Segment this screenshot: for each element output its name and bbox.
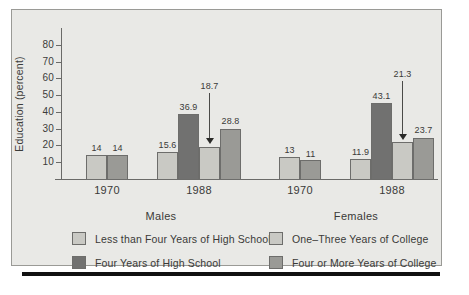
group-label-males: Males	[101, 210, 221, 222]
bar-label-females-1988-four-years-hs: 43.1	[369, 91, 394, 101]
bottom-rule	[22, 272, 440, 276]
legend-swatch-less-than-hs	[72, 232, 86, 245]
figure: Education (percent) 80 70 60 50 40 30 20…	[0, 0, 469, 295]
bar-females-1970-four-plus-college	[300, 160, 321, 180]
chart-panel: Education (percent) 80 70 60 50 40 30 20…	[11, 9, 442, 266]
bar-females-1988-less-than-hs	[350, 159, 371, 180]
plot-area: Education (percent) 80 70 60 50 40 30 20…	[61, 28, 438, 180]
bar-females-1988-four-plus-college	[413, 138, 434, 180]
annotation-label-males-1988-one-three-college: 18.7	[197, 81, 222, 91]
legend-swatch-four-plus-college	[269, 256, 283, 269]
y-tick-60	[56, 78, 61, 79]
y-tick-70	[56, 62, 61, 63]
bar-males-1988-less-than-hs	[157, 152, 178, 180]
bar-males-1970-less-than-hs	[86, 155, 107, 180]
y-tick-80	[56, 45, 61, 46]
legend-label-four-plus-college: Four or More Years of College	[292, 257, 436, 269]
y-tick-label-80: 80	[14, 39, 54, 50]
bar-label-males-1970-less-than-hs: 14	[86, 143, 107, 153]
y-axis-title: Education (percent)	[13, 56, 25, 151]
y-tick-20	[56, 145, 61, 146]
y-tick-label-30: 30	[14, 123, 54, 134]
bar-males-1988-four-plus-college	[220, 129, 241, 180]
x-label-females-1970: 1970	[270, 184, 330, 196]
y-tick-10	[56, 162, 61, 163]
y-tick-label-40: 40	[14, 106, 54, 117]
bar-label-males-1988-four-plus-college: 28.8	[218, 116, 243, 126]
annotation-line-males-1988	[209, 93, 210, 140]
annotation-arrowhead-males-1988	[206, 138, 214, 144]
y-axis-line	[61, 28, 62, 180]
legend-item-less-than-hs[interactable]: Less than Four Years of High School	[72, 232, 271, 245]
x-label-males-1988: 1988	[134, 184, 264, 196]
y-tick-label-70: 70	[14, 56, 54, 67]
y-tick-label-20: 20	[14, 139, 54, 150]
legend-item-one-three-college[interactable]: One–Three Years of College	[269, 232, 428, 245]
bar-females-1988-four-years-hs	[371, 103, 392, 180]
bar-label-males-1970-four-plus-college: 14	[107, 143, 128, 153]
bar-males-1988-four-years-hs	[178, 114, 199, 180]
y-tick-40	[56, 112, 61, 113]
annotation-line-females-1988	[402, 81, 403, 136]
bar-label-males-1988-less-than-hs: 15.6	[155, 140, 180, 150]
bar-females-1988-one-three-college	[392, 142, 413, 180]
y-tick-label-10: 10	[14, 156, 54, 167]
bar-label-females-1988-four-plus-college: 23.7	[411, 125, 436, 135]
bar-females-1970-less-than-hs	[279, 157, 300, 180]
legend-swatch-one-three-college	[269, 232, 283, 245]
x-label-males-1970: 1970	[77, 184, 137, 196]
bar-label-females-1970-four-plus-college: 11	[298, 149, 323, 159]
annotation-label-females-1988-one-three-college: 21.3	[390, 69, 415, 79]
y-tick-label-60: 60	[14, 72, 54, 83]
bar-label-females-1988-less-than-hs: 11.9	[348, 147, 373, 157]
bar-males-1988-one-three-college	[199, 147, 220, 180]
y-tick-label-50: 50	[14, 89, 54, 100]
legend-item-four-plus-college[interactable]: Four or More Years of College	[269, 256, 436, 269]
group-label-females: Females	[296, 210, 416, 222]
legend-item-four-years-hs[interactable]: Four Years of High School	[72, 256, 221, 269]
y-tick-30	[56, 129, 61, 130]
legend-label-less-than-hs: Less than Four Years of High School	[95, 233, 271, 245]
annotation-arrowhead-females-1988	[399, 134, 407, 140]
bar-label-males-1988-four-years-hs: 36.9	[176, 102, 201, 112]
legend-label-one-three-college: One–Three Years of College	[292, 233, 428, 245]
legend-label-four-years-hs: Four Years of High School	[95, 257, 221, 269]
legend-swatch-four-years-hs	[72, 256, 86, 269]
bar-males-1970-four-plus-college	[107, 155, 128, 180]
x-label-females-1988: 1988	[327, 184, 457, 196]
y-tick-50	[56, 95, 61, 96]
